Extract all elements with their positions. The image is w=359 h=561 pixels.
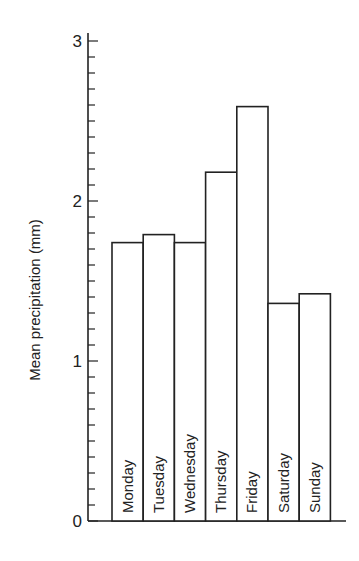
bar-label: Tuesday: [150, 456, 167, 513]
bar-friday: [237, 107, 268, 521]
bar-label: Friday: [243, 471, 260, 513]
bar-label: Sunday: [306, 462, 323, 513]
bar-label: Saturday: [275, 452, 292, 513]
y-tick-label: 2: [73, 192, 82, 211]
y-tick-label: 0: [73, 512, 82, 531]
bar-chart: 0123Mean precipitation (mm)MondayTuesday…: [0, 0, 359, 561]
bar-label: Monday: [119, 459, 136, 513]
y-axis-label: Mean precipitation (mm): [26, 219, 43, 381]
bar-label: Thursday: [212, 450, 229, 513]
y-tick-label: 1: [73, 352, 82, 371]
bar-label: Wednesday: [181, 434, 198, 513]
y-tick-label: 3: [73, 32, 82, 51]
